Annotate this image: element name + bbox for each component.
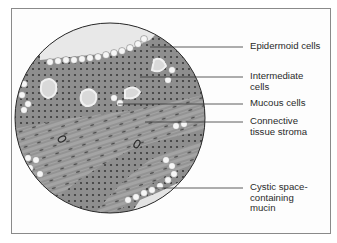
label-epidermoid-cells: Epidermoid cells bbox=[250, 41, 320, 52]
label-intermediate-cells: Intermediate cells bbox=[250, 71, 303, 92]
tissue-section bbox=[10, 20, 215, 220]
label-connective-tissue-stroma: Connective tissue stroma bbox=[250, 116, 307, 137]
label-cystic-space: Cystic space- containing mucin bbox=[250, 182, 308, 214]
label-mucous-cells: Mucous cells bbox=[250, 98, 305, 109]
